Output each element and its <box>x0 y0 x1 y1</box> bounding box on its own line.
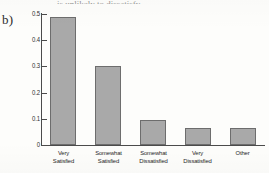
y-tick-label-text: 0.1 <box>20 115 40 122</box>
y-axis-line <box>41 13 42 146</box>
x-axis-category-label-line: Dissatisfied <box>176 157 219 165</box>
y-tick-label: 0.5 <box>14 10 40 18</box>
y-tick-mark <box>42 145 47 146</box>
x-axis-category-label: VerySatisfied <box>42 149 85 165</box>
y-tick-label-text: 0.3 <box>20 62 40 69</box>
bar <box>185 128 211 145</box>
bar <box>230 128 256 145</box>
x-axis-category-label: SomewhatSatisfied <box>87 149 130 165</box>
bar <box>50 17 76 145</box>
x-axis-category-label: Other <box>221 149 264 157</box>
y-tick-mark <box>42 40 47 41</box>
y-tick-label-text: 0 <box>20 141 40 148</box>
x-axis-category-label-line: Satisfied <box>42 157 85 165</box>
x-axis-category-label-line: Somewhat <box>132 149 175 157</box>
y-tick-label: 0 <box>14 141 40 149</box>
bar <box>140 120 166 145</box>
y-tick-mark <box>42 14 47 15</box>
y-tick-mark <box>42 66 47 67</box>
y-tick-label: 0.3 <box>14 62 40 70</box>
x-axis-category-label: VeryDissatisfied <box>176 149 219 165</box>
x-axis-category-label-line: Very <box>42 149 85 157</box>
chart-screenshot: is unlikely to dissatisfy b) 0.50.40.30.… <box>0 0 269 173</box>
bar <box>95 66 121 145</box>
y-tick-label-text: 0.4 <box>20 36 40 43</box>
y-tick-label: 0.1 <box>14 115 40 123</box>
x-axis-category-label: SomewhatDissatisfied <box>132 149 175 165</box>
x-axis-category-label-line: Somewhat <box>87 149 130 157</box>
y-tick-label-text: 0.5 <box>20 10 40 17</box>
x-axis-line <box>41 145 265 146</box>
y-tick-label: 0.4 <box>14 36 40 44</box>
x-axis-category-label-line: Other <box>221 149 264 157</box>
bar-chart-plot-area: 0.50.40.30.20.10 VerySatisfiedSomewhatSa… <box>0 0 269 173</box>
x-axis-category-label-line: Very <box>176 149 219 157</box>
y-tick-label-text: 0.2 <box>20 89 40 96</box>
x-axis-category-label-line: Satisfied <box>87 157 130 165</box>
y-tick-label: 0.2 <box>14 89 40 97</box>
y-tick-mark <box>42 93 47 94</box>
x-axis-category-label-line: Dissatisfied <box>132 157 175 165</box>
y-tick-mark <box>42 119 47 120</box>
